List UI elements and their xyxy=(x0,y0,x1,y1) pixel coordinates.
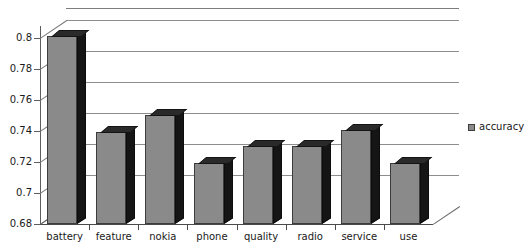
x-axis-tick xyxy=(237,224,238,230)
y-axis-tick-label: 0.72 xyxy=(10,157,32,167)
bar-front-face xyxy=(341,130,371,224)
bar-side-face xyxy=(273,140,282,224)
bar-side-face xyxy=(126,126,135,224)
x-axis-tick xyxy=(138,224,139,230)
x-axis-tick xyxy=(384,224,385,230)
x-axis-label-feature: feature xyxy=(89,231,138,243)
x-axis-tick xyxy=(187,224,188,230)
x-axis-label-battery: battery xyxy=(40,231,89,243)
bar-front-face xyxy=(243,146,273,224)
bar-series-accuracy xyxy=(40,0,433,224)
bar-front-face xyxy=(96,132,126,224)
bar-side-face xyxy=(77,30,86,224)
x-axis-label-phone: phone xyxy=(187,231,236,243)
bar-quality xyxy=(243,146,273,224)
x-axis-label-quality: quality xyxy=(237,231,286,243)
y-axis-tick-label: 0.78 xyxy=(10,64,32,74)
legend-swatch-accuracy xyxy=(468,124,475,131)
y-axis-tick-label: 0.8 xyxy=(16,33,32,43)
x-axis-label-service: service xyxy=(335,231,384,243)
bar-radio xyxy=(292,146,322,224)
bar-battery xyxy=(47,36,77,224)
legend-label-accuracy: accuracy xyxy=(479,122,524,132)
bar-side-face xyxy=(371,125,380,224)
y-axis-tick-label: 0.68 xyxy=(10,219,32,229)
bar-feature xyxy=(96,132,126,224)
x-axis-labels: batteryfeaturenokiaphonequalityradioserv… xyxy=(40,231,433,251)
x-axis-label-nokia: nokia xyxy=(138,231,187,243)
x-axis-label-radio: radio xyxy=(286,231,335,243)
bar-service xyxy=(341,130,371,224)
y-axis-tick-label: 0.76 xyxy=(10,95,32,105)
bar-phone xyxy=(194,163,224,224)
bar-front-face xyxy=(292,146,322,224)
bar-use xyxy=(390,163,420,224)
bar-front-face xyxy=(194,163,224,224)
x-axis-tick xyxy=(335,224,336,230)
bar-front-face xyxy=(390,163,420,224)
bar-side-face xyxy=(175,109,184,224)
x-axis-tick xyxy=(286,224,287,230)
bar-nokia xyxy=(145,115,175,224)
y-axis-tick-label: 0.74 xyxy=(10,126,32,136)
bar-side-face xyxy=(420,157,429,224)
bar-side-face xyxy=(224,157,233,224)
bar-front-face xyxy=(47,36,77,224)
bar-chart: 0.680.70.720.740.760.780.8 batteryfeatur… xyxy=(0,0,532,252)
bar-side-face xyxy=(322,140,331,224)
floor-right-edge xyxy=(433,206,460,225)
x-axis-tick xyxy=(89,224,90,230)
y-axis-tick-label: 0.7 xyxy=(16,188,32,198)
y-axis-labels: 0.680.70.720.740.760.780.8 xyxy=(0,0,32,252)
chart-legend: accuracy xyxy=(468,122,524,132)
bar-front-face xyxy=(145,115,175,224)
x-axis-label-use: use xyxy=(384,231,433,243)
